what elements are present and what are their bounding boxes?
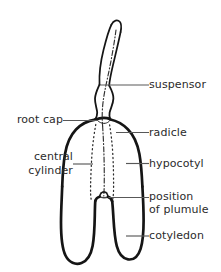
label-hypocotyl: hypocotyl <box>149 157 204 171</box>
root-cap-detail <box>98 120 111 123</box>
embryo-diagram-figure: suspensor root cap radicle central cylin… <box>0 0 221 272</box>
label-position-of-plumule-line1: position <box>149 190 193 204</box>
embryo-body-outline <box>61 118 144 264</box>
label-central-cylinder-line1: central <box>0 150 73 164</box>
central-cylinder-dotted-lines <box>91 125 114 200</box>
suspensor-shape <box>99 20 121 85</box>
label-radicle: radicle <box>149 126 187 140</box>
label-position-of-plumule-line2: of plumule <box>149 203 209 217</box>
leader-lines <box>63 85 149 236</box>
label-central-cylinder-line2: cylinder <box>0 164 73 178</box>
label-cotyledon: cotyledon <box>149 229 204 243</box>
suspensor-neck-shape <box>95 85 113 120</box>
label-root-cap: root cap <box>0 113 63 127</box>
label-suspensor: suspensor <box>149 78 206 92</box>
